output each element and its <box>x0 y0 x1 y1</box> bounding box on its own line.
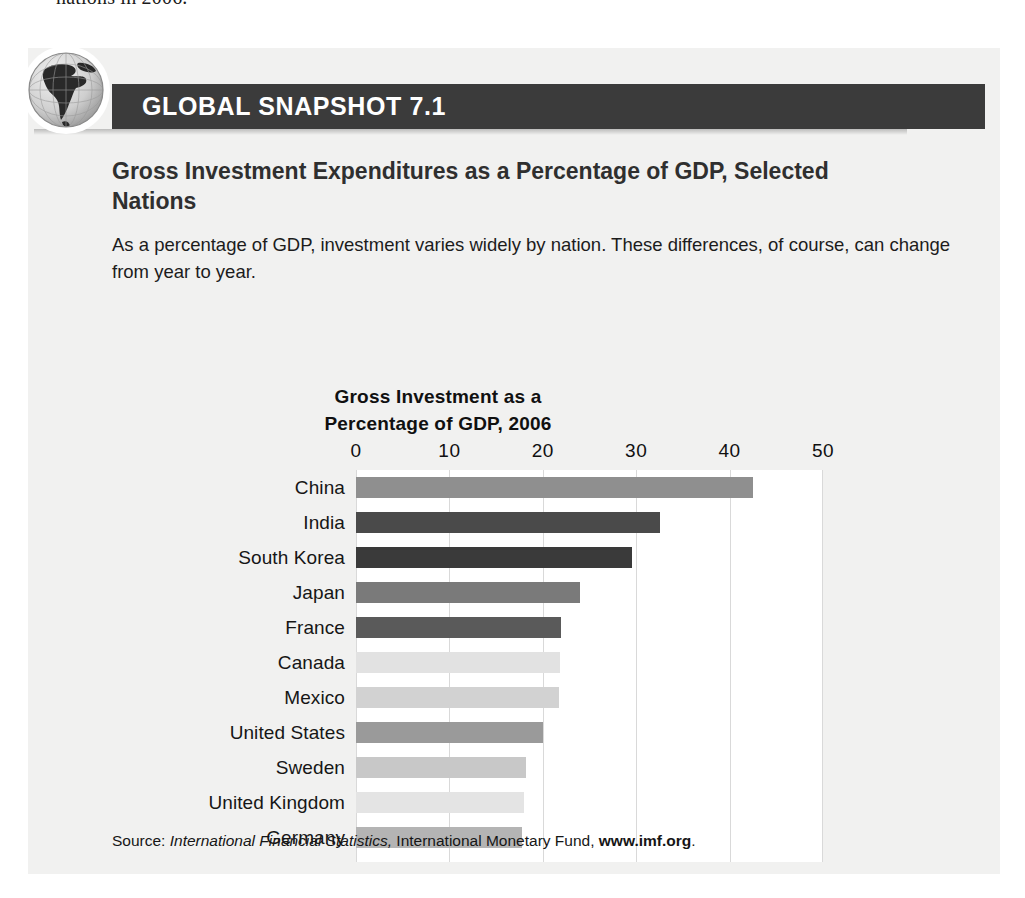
chart-title-line-1: Gross Investment as a <box>28 384 848 411</box>
snapshot-banner: GLOBAL SNAPSHOT 7.1 <box>112 84 985 129</box>
bar-united-kingdom <box>356 792 524 813</box>
bar-sweden <box>356 757 526 778</box>
banner-shadow <box>34 129 907 135</box>
bar-china <box>356 477 753 498</box>
source-prefix: Source: <box>112 832 165 849</box>
bar-label-japan: Japan <box>293 575 345 610</box>
bar-row: South Korea <box>28 540 1000 575</box>
bar-track <box>356 680 823 715</box>
bar-track <box>356 505 823 540</box>
bar-france <box>356 617 561 638</box>
bar-track <box>356 645 823 680</box>
bar-track <box>356 750 823 785</box>
snapshot-banner-label: GLOBAL SNAPSHOT 7.1 <box>142 92 446 121</box>
bar-label-france: France <box>285 610 345 645</box>
bar-label-mexico: Mexico <box>284 680 345 715</box>
x-axis-ticks: 01020304050 <box>28 440 1000 466</box>
bar-row: United States <box>28 715 1000 750</box>
bar-row: United Kingdom <box>28 785 1000 820</box>
source-organization: International Monetary Fund, <box>396 832 594 849</box>
page-cutoff-text: nations in 2006. <box>56 0 188 9</box>
bar-track <box>356 610 823 645</box>
bar-label-united-states: United States <box>230 715 345 750</box>
bar-row: Mexico <box>28 680 1000 715</box>
chart-source: Source: International Financial Statisti… <box>112 832 696 850</box>
snapshot-headline: Gross Investment Expenditures as a Perce… <box>112 156 872 217</box>
bar-label-south-korea: South Korea <box>238 540 345 575</box>
bar-mexico <box>356 687 559 708</box>
source-publication: International Financial Statistics, <box>170 832 392 849</box>
x-axis-tick-50: 50 <box>812 440 834 462</box>
bar-united-states <box>356 722 543 743</box>
bar-row: China <box>28 470 1000 505</box>
x-axis-tick-20: 20 <box>532 440 554 462</box>
bar-label-canada: Canada <box>278 645 345 680</box>
bar-rows: ChinaIndiaSouth KoreaJapanFranceCanadaMe… <box>28 470 1000 855</box>
globe-icon <box>22 46 110 134</box>
chart-container: Gross Investment as a Percentage of GDP,… <box>28 378 1000 878</box>
bar-label-india: India <box>303 505 345 540</box>
bar-track <box>356 470 823 505</box>
bar-track <box>356 540 823 575</box>
x-axis-tick-40: 40 <box>719 440 741 462</box>
bar-label-sweden: Sweden <box>276 750 345 785</box>
bar-row: India <box>28 505 1000 540</box>
bar-japan <box>356 582 580 603</box>
bar-south-korea <box>356 547 632 568</box>
chart-title-line-2: Percentage of GDP, 2006 <box>28 411 848 438</box>
source-url: www.imf.org <box>599 832 691 849</box>
chart-title: Gross Investment as a Percentage of GDP,… <box>28 384 848 437</box>
bar-row: Sweden <box>28 750 1000 785</box>
x-axis-tick-0: 0 <box>350 440 361 462</box>
snapshot-lede: As a percentage of GDP, investment varie… <box>112 232 952 286</box>
bar-row: Japan <box>28 575 1000 610</box>
global-snapshot-panel: Gross Investment Expenditures as a Perce… <box>28 48 1000 874</box>
bar-track <box>356 715 823 750</box>
bar-track <box>356 575 823 610</box>
bar-label-united-kingdom: United Kingdom <box>208 785 345 820</box>
bar-india <box>356 512 660 533</box>
bar-row: France <box>28 610 1000 645</box>
bar-label-china: China <box>295 470 345 505</box>
bar-row: Canada <box>28 645 1000 680</box>
bar-canada <box>356 652 560 673</box>
source-suffix: . <box>691 832 695 849</box>
x-axis-tick-10: 10 <box>438 440 460 462</box>
x-axis-tick-30: 30 <box>625 440 647 462</box>
bar-track <box>356 785 823 820</box>
